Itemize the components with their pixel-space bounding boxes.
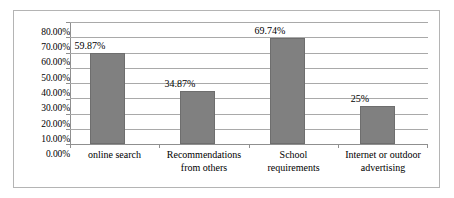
- x-axis-label-internet-or-outdoor-advertising: Internet or outdoor advertising: [338, 149, 428, 174]
- bar-online-search[interactable]: [90, 53, 125, 144]
- data-label-internet-or-outdoor-advertising: 25%: [330, 93, 390, 104]
- bar-internet-or-outdoor-advertising[interactable]: [360, 106, 395, 144]
- x-axis-label-line1: Recommendations: [167, 149, 241, 160]
- x-axis-label-line2: requirements: [249, 162, 338, 175]
- x-axis-label-line1: School: [280, 149, 308, 160]
- bar-chart: 80.00% 70.00% 60.00% 50.00% 40.00% 30.00…: [0, 0, 454, 198]
- x-axis-label-line1: online search: [88, 149, 141, 160]
- data-label-school-requirements: 69.74%: [240, 25, 300, 36]
- x-axis-tick: [159, 144, 160, 148]
- y-axis-labels: 80.00% 70.00% 60.00% 50.00% 40.00% 30.00…: [14, 10, 70, 150]
- x-axis-label-online-search: online search: [70, 149, 159, 162]
- x-axis-label-recommendations-from-others: Recommendations from others: [159, 149, 249, 174]
- y-axis-tick-label: 40.00%: [14, 88, 70, 98]
- y-axis-tick-label: 0.00%: [14, 149, 70, 159]
- x-axis-label-line1: Internet or outdoor: [345, 149, 421, 160]
- y-axis-tick-label: 60.00%: [14, 57, 70, 67]
- x-axis-tick: [249, 144, 250, 148]
- x-axis-label-school-requirements: School requirements: [249, 149, 338, 174]
- y-axis-tick-label: 10.00%: [14, 134, 70, 144]
- x-axis-label-line2: from others: [159, 162, 249, 175]
- data-label-recommendations-from-others: 34.87%: [150, 78, 210, 89]
- bar-school-requirements[interactable]: [270, 38, 305, 144]
- plot-area: [70, 22, 428, 144]
- x-axis-label-line2: advertising: [338, 162, 428, 175]
- y-axis-tick-label: 50.00%: [14, 73, 70, 83]
- gridline-80: [70, 22, 428, 23]
- y-axis-tick-label: 30.00%: [14, 103, 70, 113]
- x-axis-labels: online search Recommendations from other…: [70, 149, 428, 185]
- bar-recommendations-from-others[interactable]: [180, 91, 215, 144]
- x-axis-tick: [427, 144, 428, 148]
- gridline-70: [70, 37, 428, 38]
- y-axis-tick-label: 20.00%: [14, 119, 70, 129]
- x-axis-tick: [338, 144, 339, 148]
- data-label-online-search: 59.87%: [60, 40, 120, 51]
- y-axis-tick-label: 80.00%: [14, 27, 70, 37]
- x-axis-tick: [70, 144, 71, 148]
